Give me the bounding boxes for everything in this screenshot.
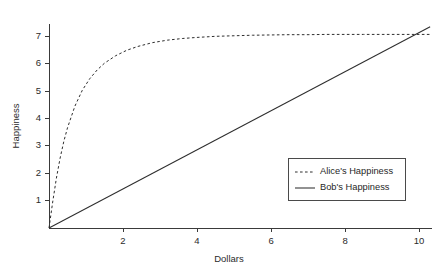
y-tick-label: 6: [36, 57, 41, 68]
y-axis-title: Happiness: [10, 103, 21, 148]
y-tick-label: 1: [36, 194, 41, 205]
legend-label: Alice's Happiness: [320, 166, 393, 176]
x-tick-label: 4: [194, 235, 199, 246]
y-axis-ticks: 1234567: [36, 30, 49, 205]
x-axis: 246810 Dollars: [49, 228, 432, 264]
y-tick-label: 7: [36, 30, 41, 41]
chart-container: 1234567 Happiness 246810 Dollars Alice's…: [0, 0, 446, 273]
y-tick-label: 3: [36, 139, 41, 150]
chart-legend: Alice's HappinessBob's Happiness: [289, 159, 406, 201]
x-axis-ticks: 246810: [120, 228, 424, 246]
legend-label: Bob's Happiness: [320, 182, 390, 192]
x-tick-label: 2: [120, 235, 125, 246]
x-axis-title: Dollars: [214, 253, 244, 264]
y-tick-label: 5: [36, 85, 41, 96]
x-tick-label: 6: [268, 235, 273, 246]
happiness-vs-dollars-chart: 1234567 Happiness 246810 Dollars Alice's…: [0, 0, 446, 273]
x-tick-label: 8: [342, 235, 347, 246]
y-tick-label: 4: [36, 112, 41, 123]
y-tick-label: 2: [36, 167, 41, 178]
x-tick-label: 10: [414, 235, 425, 246]
y-axis: 1234567 Happiness: [10, 24, 49, 228]
legend-box: [289, 159, 406, 201]
